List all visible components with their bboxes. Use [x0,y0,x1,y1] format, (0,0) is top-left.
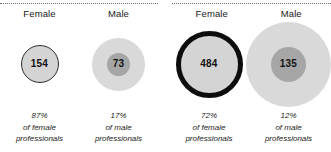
caption-female-right: 72% of female professionals [185,110,232,145]
caption-line-1: of female [16,122,63,134]
column-header-female: Female [172,8,252,19]
column-header-female: Female [0,8,79,19]
caption-line-2: professionals [185,133,232,145]
bubble-zone-male-left: 73 [79,22,158,106]
column-header-male: Male [79,8,158,19]
caption-percent: 17% [95,110,142,122]
bubble-value-73: 73 [113,59,125,69]
bubble-male-inner-73[interactable]: 73 [107,53,130,76]
caption-percent: 12% [265,110,312,122]
column-male-left: 73 17% of male professionals [79,22,158,152]
column-male-right: 135 12% of male professionals [246,22,331,152]
column-header-male: Male [252,8,331,19]
panel-right-columns: 484 72% of female professionals 135 [172,22,331,152]
caption-line-2: professionals [265,133,312,145]
caption-line-1: of male [95,122,142,134]
panel-right-dotted-rule [172,3,331,5]
panel-left-columns: 154 87% of female professionals 73 [0,22,158,152]
bubble-zone-female-right: 484 [172,22,246,106]
caption-female-left: 87% of female professionals [16,110,63,145]
panel-left-headers: Female Male [0,8,158,19]
bubble-value-484: 484 [200,59,217,69]
bubble-zone-male-right: 135 [246,22,331,106]
bubble-zone-female-left: 154 [0,22,79,106]
caption-line-1: of female [185,122,232,134]
bubble-male-outer-right[interactable]: 135 [246,22,331,107]
caption-percent: 72% [185,110,232,122]
panel-right: Female Male 484 72% of female profession… [172,0,331,152]
caption-line-2: professionals [16,133,63,145]
caption-percent: 87% [16,110,63,122]
bubble-comparison-figure: Female Male 154 87% of female profession… [0,0,331,152]
bubble-male-inner-135[interactable]: 135 [271,47,306,82]
column-female-right: 484 72% of female professionals [172,22,246,152]
caption-line-2: professionals [95,133,142,145]
bubble-female-484[interactable]: 484 [176,31,243,98]
panel-left: Female Male 154 87% of female profession… [0,0,158,152]
column-female-left: 154 87% of female professionals [0,22,79,152]
panel-divider-gap [158,0,172,152]
panel-left-dotted-rule [0,3,158,5]
bubble-male-outer-left[interactable]: 73 [92,38,145,91]
panel-right-headers: Female Male [172,8,331,19]
bubble-value-154: 154 [31,59,48,69]
bubble-value-135: 135 [280,59,297,69]
bubble-female-154[interactable]: 154 [21,45,59,83]
caption-male-right: 12% of male professionals [265,110,312,145]
caption-line-1: of male [265,122,312,134]
caption-male-left: 17% of male professionals [95,110,142,145]
